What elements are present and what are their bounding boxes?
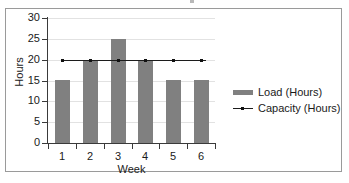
x-axis-tick (76, 144, 77, 149)
x-axis-tick-label: 2 (77, 151, 103, 162)
chart-legend: Load (Hours)Capacity (Hours) (233, 84, 343, 116)
bar (194, 80, 209, 143)
x-axis-tick (215, 144, 216, 149)
capacity-marker (61, 59, 64, 62)
capacity-line (62, 60, 206, 61)
capacity-marker (117, 59, 120, 62)
x-axis-tick-label: 5 (160, 151, 186, 162)
y-axis-tick-label: 0 (6, 137, 40, 148)
x-axis-tick (48, 144, 49, 149)
x-axis-tick-label: 1 (49, 151, 75, 162)
bar (111, 39, 126, 143)
legend-item: Capacity (Hours) (233, 100, 343, 116)
x-axis-tick (104, 144, 105, 149)
cropped-title-artifact (190, 0, 194, 3)
x-axis-tick (159, 144, 160, 149)
chart-screenshot: 051015202530 123456 Week Hours Load (Hou… (0, 0, 349, 183)
x-axis-tick-label: 4 (132, 151, 158, 162)
x-axis-tick-label: 3 (105, 151, 131, 162)
x-axis-tick (132, 144, 133, 149)
legend-label: Capacity (Hours) (258, 102, 341, 114)
capacity-marker (144, 59, 147, 62)
bar (55, 80, 70, 143)
y-axis-tick-label: 5 (6, 116, 40, 127)
x-axis-title: Week (48, 163, 215, 175)
bar (166, 80, 181, 143)
bar (138, 60, 153, 143)
legend-item: Load (Hours) (233, 84, 343, 100)
legend-label: Load (Hours) (258, 86, 322, 98)
capacity-marker (89, 59, 92, 62)
capacity-marker (200, 59, 203, 62)
bar (83, 60, 98, 143)
capacity-marker (172, 59, 175, 62)
y-axis-title: Hours (13, 42, 25, 102)
plot-area (48, 18, 215, 143)
x-axis-tick-label: 6 (188, 151, 214, 162)
y-axis-tick-label: 30 (6, 12, 40, 23)
legend-bar-swatch-icon (233, 90, 253, 95)
x-axis-tick (187, 144, 188, 149)
legend-line-swatch-icon (233, 105, 253, 112)
